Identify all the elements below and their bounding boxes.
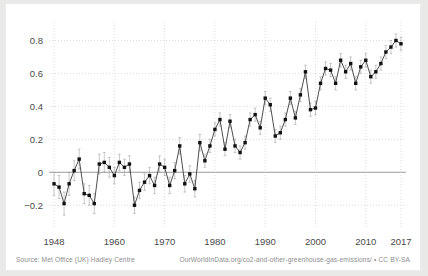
data-point-marker <box>344 70 347 73</box>
data-point-marker <box>233 144 236 147</box>
data-point-marker <box>319 82 322 85</box>
y-axis-tick-label: −0.2 <box>24 200 43 211</box>
data-point-marker <box>57 185 60 188</box>
chart-plot-area: −0.200.20.40.60.819481960197019801990200… <box>6 4 420 270</box>
y-axis-tick-label: 0.8 <box>30 35 43 46</box>
chart-attribution-note: OurWorldInData.org/co2-and-other-greenho… <box>179 256 410 263</box>
data-point-marker <box>299 93 302 96</box>
data-point-marker <box>128 162 131 165</box>
data-point-marker <box>133 204 136 207</box>
data-point-marker <box>364 59 367 62</box>
x-axis-tick-label: 1980 <box>204 236 225 247</box>
data-point-marker <box>243 141 246 144</box>
y-axis-tick-label: 0.4 <box>30 101 43 112</box>
data-point-marker <box>218 118 221 121</box>
temperature-anomaly-chart: −0.200.20.40.60.819481960197019801990200… <box>6 4 420 270</box>
data-point-marker <box>168 184 171 187</box>
data-point-marker <box>72 169 75 172</box>
data-point-marker <box>279 131 282 134</box>
data-point-marker <box>77 157 80 160</box>
data-point-marker <box>98 162 101 165</box>
data-point-marker <box>203 159 206 162</box>
data-point-marker <box>334 82 337 85</box>
data-point-marker <box>138 189 141 192</box>
data-point-marker <box>62 202 65 205</box>
data-point-marker <box>369 75 372 78</box>
data-point-marker <box>264 96 267 99</box>
data-point-marker <box>324 67 327 70</box>
data-point-marker <box>93 202 96 205</box>
data-point-marker <box>349 62 352 65</box>
data-point-marker <box>113 174 116 177</box>
data-point-marker <box>284 118 287 121</box>
data-point-marker <box>289 96 292 99</box>
data-point-marker <box>118 161 121 164</box>
data-point-marker <box>304 70 307 73</box>
data-point-marker <box>359 65 362 68</box>
data-point-marker <box>148 174 151 177</box>
data-point-marker <box>314 106 317 109</box>
data-point-marker <box>158 162 161 165</box>
x-axis-tick-label: 1990 <box>255 236 276 247</box>
data-point-marker <box>198 141 201 144</box>
data-point-marker <box>188 172 191 175</box>
data-point-marker <box>103 161 106 164</box>
data-point-marker <box>269 103 272 106</box>
data-point-marker <box>384 50 387 53</box>
data-point-marker <box>208 144 211 147</box>
x-axis-tick-label: 1960 <box>104 236 125 247</box>
data-point-marker <box>223 148 226 151</box>
x-axis-tick-label: 1948 <box>43 236 64 247</box>
y-axis-tick-label: 0.2 <box>30 134 43 145</box>
data-point-marker <box>88 194 91 197</box>
data-point-marker <box>83 192 86 195</box>
data-point-marker <box>309 108 312 111</box>
data-point-marker <box>329 68 332 71</box>
data-point-marker <box>354 82 357 85</box>
data-point-marker <box>153 184 156 187</box>
data-point-marker <box>213 128 216 131</box>
data-point-marker <box>399 42 402 45</box>
data-point-marker <box>339 59 342 62</box>
data-point-marker <box>379 62 382 65</box>
data-point-marker <box>193 187 196 190</box>
y-axis-tick-label: 0 <box>38 167 43 178</box>
temperature-series-line <box>54 40 401 205</box>
data-point-marker <box>394 39 397 42</box>
data-point-marker <box>248 118 251 121</box>
data-point-marker <box>294 116 297 119</box>
x-axis-tick-label: 2017 <box>390 236 411 247</box>
data-point-marker <box>173 169 176 172</box>
data-point-marker <box>253 113 256 116</box>
x-axis-tick-label: 2010 <box>355 236 376 247</box>
data-point-marker <box>228 120 231 123</box>
chart-card: −0.200.20.40.60.819481960197019801990200… <box>6 4 420 270</box>
chart-source-note: Source: Met Office (UK) Hadley Centre <box>16 256 135 263</box>
x-axis-tick-label: 2000 <box>305 236 326 247</box>
data-point-marker <box>389 45 392 48</box>
x-axis-tick-label: 1970 <box>154 236 175 247</box>
data-point-marker <box>143 180 146 183</box>
data-point-marker <box>274 134 277 137</box>
data-point-marker <box>52 182 55 185</box>
data-point-marker <box>178 144 181 147</box>
y-axis-tick-label: 0.6 <box>30 68 43 79</box>
data-point-marker <box>374 70 377 73</box>
data-point-marker <box>123 166 126 169</box>
data-point-marker <box>67 182 70 185</box>
data-point-marker <box>183 182 186 185</box>
data-point-marker <box>258 126 261 129</box>
data-point-marker <box>163 166 166 169</box>
data-point-marker <box>238 151 241 154</box>
data-point-marker <box>108 166 111 169</box>
